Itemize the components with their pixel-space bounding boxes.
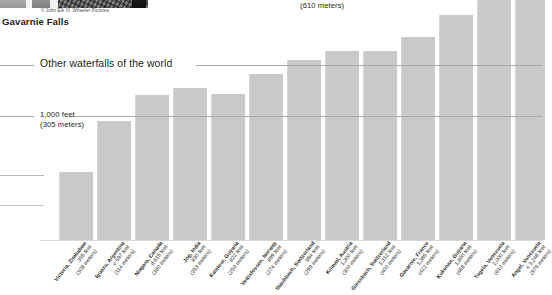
gridline-minor-upper [0,175,44,176]
gridline-1000ft-right [70,116,542,117]
chart-bar [325,51,359,240]
gridline-2000ft-left [0,65,34,66]
chart-x-label: Kukenan, Guyana1,600 feet(488 meters) [435,240,478,288]
gridline-1000ft-left [0,116,34,117]
chart-x-axis-labels: Victoria, Zimbabwe355 feet(108 meters)Ig… [0,238,542,275]
chart-bar [515,0,545,240]
chart-x-label: Victoria, Zimbabwe355 feet(108 meters) [53,240,98,290]
chart-x-label: Gavarnie, France1,385 feet(422 meters) [399,240,441,286]
chart-bar [401,37,435,240]
gridline-1000ft-feet-label: 1,000 feet [40,110,75,119]
chart-bar [363,51,397,240]
chart-bar [477,0,511,240]
gridline-2000ft-meters-label: (610 meters) [300,1,344,10]
chart-x-label: Tugela, Venezuela2,000 feet(610 meters) [473,240,516,288]
chart-bar [249,74,283,240]
chart-bar [287,60,321,240]
gridline-1000ft-meters-label: (305 meters) [40,120,84,129]
chart-bar [97,121,131,240]
chart-x-label: Angel, Venezuelao 3,248 feet(979 meters) [509,240,551,287]
chart-section-title: Other waterfalls of the world [40,58,172,69]
chart-x-label: Niagara, Canadad 815 feet(180 meters) [133,240,174,285]
chart-bar [59,172,93,240]
chart-bar [173,88,207,240]
chart-bar [439,15,473,240]
chart-x-label: Jog, India830 feet(253 meters) [179,240,213,276]
gridline-minor-lower [0,205,44,206]
gridline-2000ft-right [196,65,542,66]
chart-x-label: Iguazu, Argentinao 597 feet(114 meters) [94,240,137,287]
